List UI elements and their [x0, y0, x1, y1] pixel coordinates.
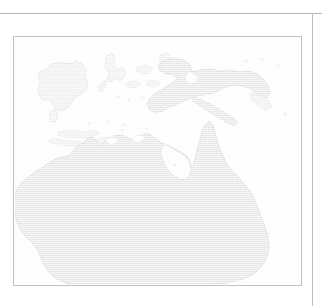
map-canvas: [14, 37, 301, 285]
page-top-rule: [0, 13, 322, 14]
map-figure-frame: [13, 36, 302, 286]
page-right-rule: [312, 13, 313, 306]
